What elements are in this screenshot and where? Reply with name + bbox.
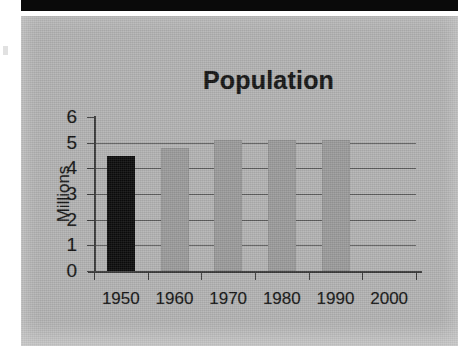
y-axis-tick-label: 4	[66, 157, 77, 179]
chart-title: Population	[21, 66, 458, 95]
chart-panel: Population Millions 6543210 195019601970…	[21, 16, 458, 346]
bar-1980	[268, 140, 296, 271]
x-axis-tick	[94, 271, 95, 280]
x-axis-tick	[362, 271, 363, 280]
x-axis-tick	[416, 271, 417, 280]
x-axis-tick-label: 2000	[370, 289, 408, 309]
y-axis-tick-label: 3	[66, 183, 77, 205]
x-axis-tick	[255, 271, 256, 280]
scan-artifact-speck	[3, 46, 8, 55]
bar-1960	[161, 148, 189, 271]
scan-artifact-top-bar	[21, 0, 458, 11]
y-axis-tick-label: 6	[66, 106, 77, 128]
x-axis-tick-label: 1990	[317, 289, 355, 309]
gridline	[94, 220, 416, 221]
x-axis-tick-label: 1970	[209, 289, 247, 309]
x-axis-tick	[309, 271, 310, 280]
gridline	[94, 168, 416, 169]
bar-1990	[322, 140, 350, 271]
plot-area: 6543210 195019601970198019902000	[94, 117, 416, 271]
y-axis-tick-label: 2	[66, 209, 77, 231]
x-axis-tick	[201, 271, 202, 280]
gridline	[94, 143, 416, 144]
bar-1950	[107, 156, 135, 272]
x-axis-tick-label: 1960	[156, 289, 194, 309]
gridline	[94, 194, 416, 195]
y-axis-tick-label: 5	[66, 132, 77, 154]
bar-1970	[214, 140, 242, 271]
y-axis-tick-label: 1	[66, 234, 77, 256]
x-axis-tick-label: 1980	[263, 289, 301, 309]
y-axis-line	[94, 116, 96, 272]
x-axis-tick	[148, 271, 149, 280]
gridline	[94, 245, 416, 246]
y-axis-tick-label: 0	[66, 260, 77, 282]
x-axis-tick-label: 1950	[102, 289, 140, 309]
